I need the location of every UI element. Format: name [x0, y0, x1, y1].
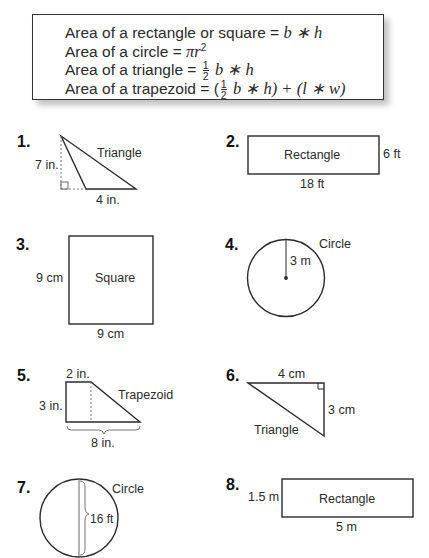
shapes-canvas — [0, 0, 429, 558]
base-label: 8 in. — [91, 436, 115, 450]
base-label: 4 in. — [96, 193, 120, 207]
circle-4-shape — [248, 240, 325, 317]
height-label: 6 ft — [383, 147, 400, 161]
height-label: 3 cm — [328, 403, 355, 417]
top-base-label: 2 in. — [66, 367, 90, 381]
shape-name-label: Square — [95, 271, 135, 285]
radius-label: 3 m — [290, 254, 311, 268]
shape-name-label: Triangle — [97, 146, 142, 160]
problem-number: 4. — [225, 236, 238, 254]
shape-name-label: Trapezoid — [118, 388, 173, 402]
base-label: 18 ft — [300, 177, 324, 191]
problem-number: 5. — [17, 367, 30, 385]
shape-name-label: Circle — [319, 237, 351, 251]
shape-name-label: Triangle — [254, 423, 299, 437]
problem-number: 1. — [17, 133, 30, 151]
height-label: 3 in. — [39, 399, 63, 413]
triangle-1-shape — [61, 136, 136, 189]
problem-number: 2. — [226, 133, 239, 151]
diameter-label: 16 ft — [90, 512, 113, 526]
shape-name-label: Rectangle — [284, 148, 340, 162]
problem-number: 8. — [226, 476, 239, 494]
shape-name-label: Rectangle — [319, 492, 375, 506]
height-label: 7 in. — [35, 158, 59, 172]
problem-number: 3. — [16, 236, 29, 254]
base-label: 9 cm — [97, 327, 124, 341]
height-label: 9 cm — [36, 271, 63, 285]
problem-number: 6. — [226, 367, 239, 385]
height-label: 1.5 m — [248, 490, 279, 504]
shape-name-label: Circle — [112, 482, 144, 496]
base-label: 4 cm — [278, 367, 305, 381]
base-label: 5 m — [336, 520, 357, 534]
problem-number: 7. — [17, 479, 30, 497]
